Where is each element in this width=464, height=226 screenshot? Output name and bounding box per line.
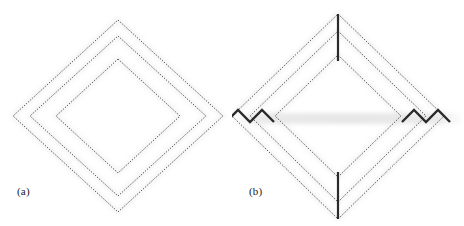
panel-b: (b) [232,0,464,226]
panel-b-label: (b) [249,186,262,197]
panel-a-dotted-diamonds [13,20,223,212]
panel-b-diagram [232,0,464,226]
shadow-diamond-outer [13,20,223,212]
panel-a-label: (a) [17,186,30,197]
figure-container: (a) [0,0,464,226]
panel-a-diagram [0,0,232,226]
panel-a: (a) [0,0,232,226]
panel-a-shadow-layer [13,20,223,212]
dotted-diamond-outer [13,20,223,212]
